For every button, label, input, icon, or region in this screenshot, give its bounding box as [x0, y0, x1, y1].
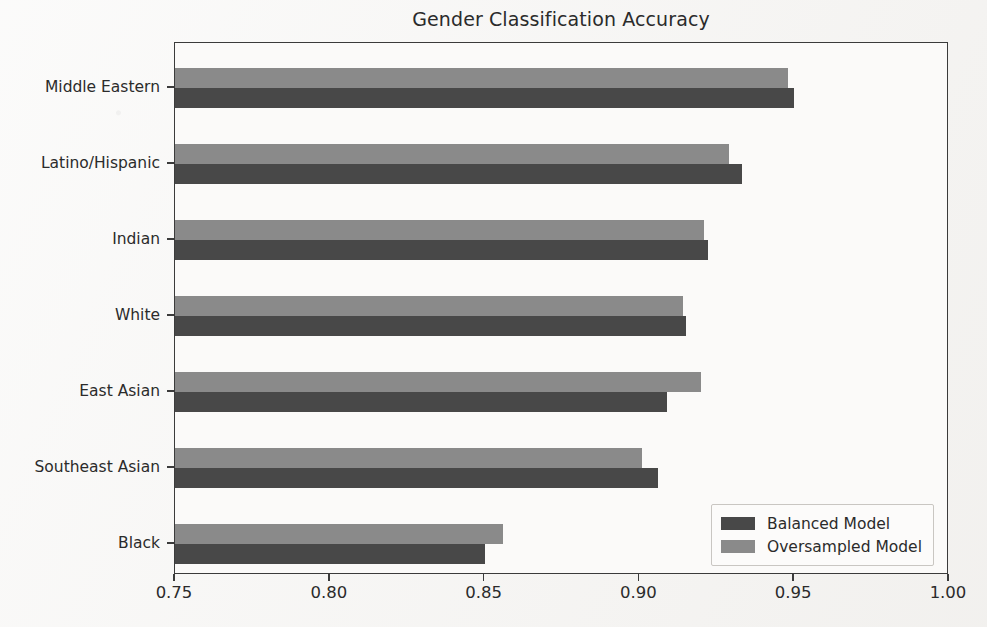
y-tick-label: East Asian: [79, 381, 160, 401]
x-tick-label: 0.75: [156, 583, 193, 602]
bar-balanced-model: [175, 164, 742, 184]
y-tick-mark: [167, 86, 174, 88]
legend-entry: Oversampled Model: [721, 535, 922, 558]
legend-label: Balanced Model: [767, 515, 890, 533]
chart-figure: Gender Classification Accuracy Middle Ea…: [0, 0, 987, 627]
bar-group: [175, 195, 947, 271]
y-tick-label: Black: [118, 533, 160, 553]
x-axis: 0.750.800.850.900.951.00: [174, 574, 948, 620]
x-tick-mark: [638, 574, 640, 581]
bar-oversampled-model: [175, 524, 503, 544]
bar-group: [175, 119, 947, 195]
x-tick-label: 0.85: [465, 583, 502, 602]
x-tick-mark: [173, 574, 175, 581]
bar-group: [175, 271, 947, 347]
legend-swatch: [721, 540, 755, 553]
bar-oversampled-model: [175, 220, 704, 240]
y-tick-mark: [167, 162, 174, 164]
y-tick-label: Indian: [112, 229, 160, 249]
bar-oversampled-model: [175, 68, 788, 88]
y-tick-label: Middle Eastern: [45, 77, 160, 97]
bar-balanced-model: [175, 544, 485, 564]
x-tick-label: 0.90: [620, 583, 657, 602]
bar-balanced-model: [175, 392, 667, 412]
legend-swatch: [721, 517, 755, 530]
legend-entry: Balanced Model: [721, 512, 922, 535]
bar-oversampled-model: [175, 372, 701, 392]
x-tick-mark: [328, 574, 330, 581]
bar-group: [175, 43, 947, 119]
bar-balanced-model: [175, 316, 686, 336]
x-tick-mark: [947, 574, 949, 581]
bar-oversampled-model: [175, 296, 683, 316]
x-tick-label: 0.80: [310, 583, 347, 602]
plot-area: [174, 42, 948, 574]
bar-balanced-model: [175, 468, 658, 488]
y-tick-mark: [167, 314, 174, 316]
chart-legend: Balanced ModelOversampled Model: [711, 504, 934, 566]
x-tick-label: 1.00: [930, 583, 967, 602]
y-tick-label: White: [115, 305, 160, 325]
x-tick-mark: [792, 574, 794, 581]
bar-balanced-model: [175, 240, 708, 260]
legend-label: Oversampled Model: [767, 538, 922, 556]
y-axis: Middle EasternLatino/HispanicIndianWhite…: [0, 42, 174, 574]
bar-oversampled-model: [175, 448, 642, 468]
y-tick-mark: [167, 390, 174, 392]
bar-balanced-model: [175, 88, 794, 108]
y-tick-mark: [167, 466, 174, 468]
x-tick-label: 0.95: [775, 583, 812, 602]
y-tick-label: Southeast Asian: [35, 457, 160, 477]
y-tick-label: Latino/Hispanic: [41, 153, 160, 173]
x-tick-mark: [483, 574, 485, 581]
bar-group: [175, 347, 947, 423]
bar-oversampled-model: [175, 144, 729, 164]
y-tick-mark: [167, 542, 174, 544]
chart-title: Gender Classification Accuracy: [174, 8, 948, 30]
bar-group: [175, 423, 947, 499]
y-tick-mark: [167, 238, 174, 240]
